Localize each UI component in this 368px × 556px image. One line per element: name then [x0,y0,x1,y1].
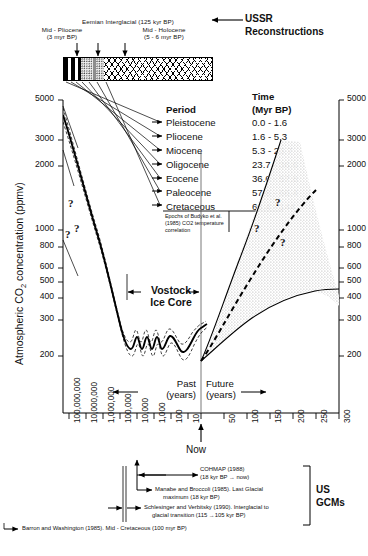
reference-schlesinger-line2: glacial transition (115 →105 kyr BP) [144,512,309,520]
reference-manabe-line2: maximum (18 kyr BP) [155,494,310,502]
reference-schlesinger-line1: Schlesinger and Verbitsky (1990). Interg… [144,504,309,512]
reference-manabe-line2-text: maximum (18 kyr BP) [163,494,220,500]
reference-cohmap-line2: (18 kyr BP → now) [200,474,320,482]
reference-manabe: Manabe and Broccoli (1985). Last Glacial… [155,486,310,501]
reference-manabe-line1: Manabe and Broccoli (1985). Last Glacial [155,486,310,494]
figure-root: Mid - Pliocene (3 myr BP) Eemian Intergl… [0,0,368,556]
reference-schlesinger: Schlesinger and Verbitsky (1990). Interg… [144,504,309,519]
reference-cohmap: COHMAP (1988) (18 kyr BP → now) [200,466,320,481]
us-gcms-line2: GCMs [316,497,345,510]
reference-schlesinger-line2-text: glacial transition (115 →105 kyr BP) [152,512,246,518]
us-gcms-line1: US [316,484,345,497]
us-gcms-label: US GCMs [316,484,345,509]
reference-barron: Barron and Washington (1985). Mid - Cret… [22,525,307,533]
reference-cohmap-line1: COHMAP (1988) [200,466,320,474]
